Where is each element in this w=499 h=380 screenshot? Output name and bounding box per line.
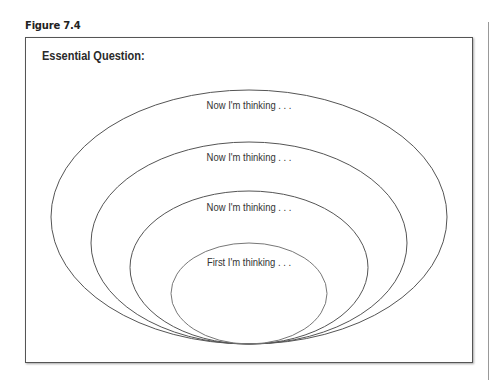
ring-outer [51, 90, 447, 344]
nested-ellipses [0, 0, 499, 380]
ring-label-second: Now I'm thinking . . . [207, 151, 292, 163]
ring-label-third: Now I'm thinking . . . [207, 201, 292, 213]
ring-label-inner: First I'm thinking . . . [207, 256, 291, 268]
ring-label-outer: Now I'm thinking . . . [207, 99, 292, 111]
